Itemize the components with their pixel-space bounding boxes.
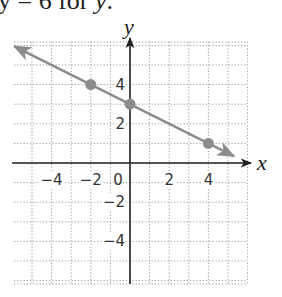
x-tick-label: 4: [204, 171, 214, 189]
y-tick-label: 4: [115, 76, 125, 94]
x-axis-label: x: [256, 150, 267, 175]
coordinate-graph: xy−4−202442−2−4: [0, 0, 282, 297]
x-tick-label: 0: [113, 171, 123, 189]
x-tick-label: 2: [164, 171, 174, 189]
plotted-line: [14, 46, 234, 156]
y-axis-label: y: [122, 14, 134, 39]
data-point: [203, 138, 214, 149]
x-tick-label: −2: [80, 171, 102, 189]
data-point: [85, 79, 96, 90]
data-point: [125, 99, 136, 110]
x-tick-label: −4: [41, 171, 63, 189]
y-tick-label: 2: [115, 115, 125, 133]
y-tick-label: −4: [103, 232, 125, 250]
y-tick-label: −2: [103, 193, 125, 211]
